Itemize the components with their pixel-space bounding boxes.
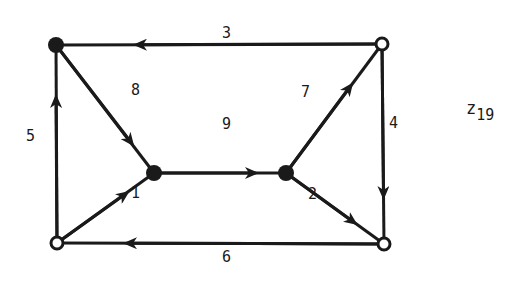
- edge-label-1: 1: [131, 186, 140, 201]
- edge-3: [56, 44, 382, 45]
- edge-label-3: 3: [222, 26, 231, 41]
- edge-6: [57, 243, 384, 244]
- node-bottom-right-hollow: [378, 238, 390, 250]
- title-subscript: 19: [476, 106, 494, 124]
- edge-7: [286, 44, 382, 173]
- edge-label-9: 9: [222, 117, 231, 132]
- directed-graph: [0, 0, 523, 292]
- edge-label-8: 8: [131, 83, 140, 98]
- edge-label-5: 5: [26, 129, 35, 144]
- node-top-left-filled: [48, 37, 64, 53]
- graph-title: z19: [466, 98, 494, 124]
- edge-2: [286, 173, 384, 244]
- node-mid-left-filled: [146, 165, 162, 181]
- edge-5: [56, 45, 57, 243]
- edge-label-2: 2: [308, 187, 317, 202]
- title-base: z: [466, 98, 476, 118]
- node-bottom-left-hollow: [51, 237, 63, 249]
- node-mid-right-filled: [278, 165, 294, 181]
- edge-label-4: 4: [389, 116, 398, 131]
- node-top-right-hollow: [376, 38, 388, 50]
- edge-4: [382, 44, 384, 244]
- edge-label-6: 6: [222, 250, 231, 265]
- edge-label-7: 7: [301, 85, 310, 100]
- edge-8: [56, 45, 154, 173]
